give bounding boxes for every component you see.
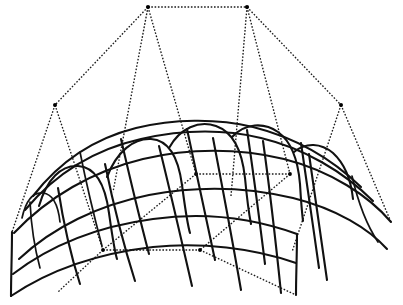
- control-point-top-left: [146, 5, 150, 9]
- canvas-background: [0, 0, 403, 305]
- control-point-mid-right: [288, 172, 292, 176]
- figure-canvas: [0, 0, 403, 305]
- control-point-top-right: [245, 5, 249, 9]
- wireframe-surface-drawing: [0, 0, 403, 305]
- control-point-low-right: [198, 248, 202, 252]
- control-point-right-shoulder: [339, 103, 343, 107]
- control-point-left-shoulder: [53, 103, 57, 107]
- skirt-edge-left: [11, 232, 12, 296]
- control-point-low-left: [101, 248, 105, 252]
- skirt-edge-right: [296, 234, 297, 295]
